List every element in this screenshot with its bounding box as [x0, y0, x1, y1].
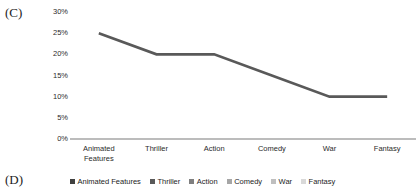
y-axis-tick-label: 5% — [42, 114, 68, 122]
y-axis-tick-label: 10% — [42, 93, 68, 101]
legend-item-label: Animated Features — [78, 177, 141, 186]
legend-swatch-icon — [301, 179, 306, 184]
y-axis-tick-label: 15% — [42, 72, 68, 80]
panel-label-d: (D) — [5, 172, 23, 188]
y-axis: 30%25%20%15%10%5%0% — [42, 0, 68, 140]
x-axis-tick-line: Fantasy — [358, 144, 416, 154]
legend-item-label: Comedy — [234, 177, 262, 186]
x-axis-tick-line: War — [301, 144, 359, 154]
y-axis-tick-label: 30% — [42, 8, 68, 16]
legend-item[interactable]: War — [271, 177, 292, 186]
chart-svg — [70, 0, 416, 140]
legend-swatch-icon — [189, 179, 194, 184]
legend-swatch-icon — [150, 179, 155, 184]
legend-item-label: Thriller — [157, 177, 180, 186]
x-axis-tick-line: Comedy — [243, 144, 301, 154]
legend-swatch-icon — [70, 179, 75, 184]
y-axis-tick-label: 20% — [42, 50, 68, 58]
x-axis-tick-label: Action — [185, 141, 243, 168]
legend-item-label: War — [279, 177, 292, 186]
y-axis-tick-label: 25% — [42, 29, 68, 37]
legend-item[interactable]: Action — [189, 177, 217, 186]
x-axis-tick-label: Thriller — [128, 141, 186, 168]
plot-area — [70, 0, 416, 140]
x-axis-tick-line: Features — [70, 154, 128, 164]
legend-item[interactable]: Comedy — [227, 177, 262, 186]
x-axis-tick-line: Animated — [70, 144, 128, 154]
x-axis-tick-label: Comedy — [243, 141, 301, 168]
x-axis: AnimatedFeaturesThrillerActionComedyWarF… — [70, 141, 416, 168]
legend-item[interactable]: Animated Features — [70, 177, 141, 186]
legend-swatch-icon — [227, 179, 232, 184]
x-axis-tick-label: AnimatedFeatures — [70, 141, 128, 168]
x-axis-tick-label: War — [301, 141, 359, 168]
chart-legend: Animated FeaturesThrillerActionComedyWar… — [70, 177, 416, 186]
legend-item[interactable]: Thriller — [150, 177, 180, 186]
x-axis-tick-label: Fantasy — [358, 141, 416, 168]
legend-item-label: Fantasy — [309, 177, 336, 186]
line-chart: 30%25%20%15%10%5%0% AnimatedFeaturesThri… — [0, 0, 416, 168]
legend-item-label: Action — [197, 177, 218, 186]
legend-item[interactable]: Fantasy — [301, 177, 335, 186]
y-axis-tick-label: 0% — [42, 135, 68, 143]
x-axis-tick-line: Action — [185, 144, 243, 154]
series-line-percentage — [99, 33, 387, 97]
x-axis-tick-line: Thriller — [128, 144, 186, 154]
legend-swatch-icon — [271, 179, 276, 184]
